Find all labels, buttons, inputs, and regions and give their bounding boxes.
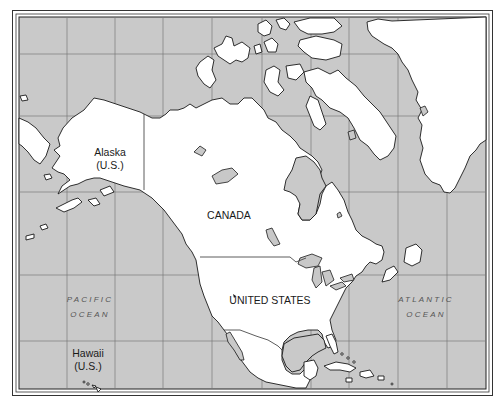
- north-america-map: Alaska (U.S.) CANADA UNITED STATES Hawai…: [0, 0, 504, 412]
- label-atlantic-ocean-1: ATLANTIC: [397, 295, 454, 304]
- label-united-states: UNITED STATES: [229, 294, 310, 306]
- label-atlantic-ocean-2: OCEAN: [406, 310, 445, 319]
- label-pacific-ocean-2: OCEAN: [70, 310, 109, 319]
- label-hawaii-note: (U.S.): [74, 360, 101, 372]
- label-hawaii: Hawaii: [72, 347, 104, 359]
- label-alaska: Alaska: [94, 146, 126, 158]
- newfoundland: [404, 244, 422, 266]
- label-pacific-ocean-1: PACIFIC: [67, 295, 113, 304]
- label-alaska-note: (U.S.): [96, 159, 123, 171]
- label-canada: CANADA: [207, 209, 251, 221]
